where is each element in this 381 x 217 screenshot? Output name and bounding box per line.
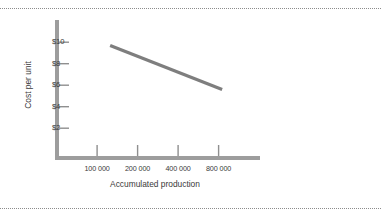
x-axis-title: Accumulated production bbox=[110, 180, 200, 188]
x-tick-label-800000: 800 000 bbox=[206, 165, 231, 172]
chart-figure: $10 $8 $6 $4 $2 100 000 200 000 400 000 … bbox=[0, 0, 381, 217]
x-tick-400000 bbox=[177, 145, 178, 156]
x-tick-label-400000: 400 000 bbox=[165, 165, 190, 172]
y-tick-8 bbox=[59, 63, 69, 64]
x-tick-800000 bbox=[218, 145, 219, 156]
x-tick-label-100000: 100 000 bbox=[84, 165, 109, 172]
y-tick-4 bbox=[59, 106, 69, 107]
y-axis-title: Cost per unit bbox=[24, 61, 32, 108]
y-tick-6 bbox=[59, 85, 69, 86]
x-tick-200000 bbox=[137, 145, 138, 156]
x-axis-spine bbox=[55, 156, 260, 160]
data-series-line bbox=[110, 45, 222, 89]
y-tick-2 bbox=[59, 128, 69, 129]
y-axis-ticks bbox=[59, 42, 69, 129]
x-tick-label-200000: 200 000 bbox=[125, 165, 150, 172]
x-axis-ticks bbox=[96, 145, 219, 156]
x-tick-100000 bbox=[96, 145, 97, 156]
